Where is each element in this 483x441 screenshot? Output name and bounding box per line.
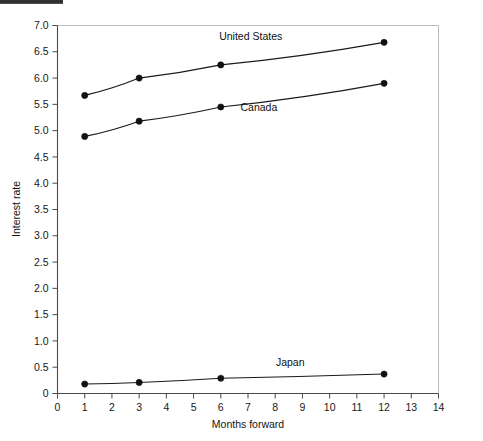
y-tick-label: 1.0	[34, 335, 49, 347]
y-tick-label: 4.0	[34, 177, 49, 189]
y-tick-label: 7.0	[34, 19, 49, 31]
x-tick-label: 3	[136, 401, 142, 413]
chart-canvas: 00.51.01.52.02.53.03.54.04.55.05.56.06.5…	[0, 0, 483, 441]
x-tick-label: 9	[300, 401, 306, 413]
x-tick-label: 13	[405, 401, 417, 413]
data-point-marker	[82, 133, 88, 139]
y-tick-label: 0	[43, 387, 49, 399]
data-point-marker	[82, 92, 88, 98]
x-tick-label: 4	[163, 401, 169, 413]
x-tick-label: 1	[82, 401, 88, 413]
x-tick-label: 10	[324, 401, 336, 413]
y-axis-tick-labels: 00.51.01.52.02.53.03.54.04.55.05.56.06.5…	[34, 19, 49, 399]
y-tick-label: 1.5	[34, 308, 49, 320]
data-point-marker	[136, 379, 142, 385]
x-tick-label: 0	[55, 401, 61, 413]
y-tick-label: 3.0	[34, 229, 49, 241]
data-point-marker	[136, 118, 142, 124]
x-tick-label: 12	[378, 401, 390, 413]
x-tick-label: 6	[218, 401, 224, 413]
y-tick-label: 5.0	[34, 124, 49, 136]
x-tick-label: 14	[433, 401, 445, 413]
axis-lines	[58, 26, 439, 394]
plot-frame	[58, 26, 439, 394]
series-line-japan	[85, 374, 384, 384]
interest-rate-line-chart: 00.51.01.52.02.53.03.54.04.55.05.56.06.5…	[0, 0, 483, 441]
data-point-marker	[136, 75, 142, 81]
data-point-marker	[381, 39, 387, 45]
y-tick-label: 5.5	[34, 98, 49, 110]
series-labels: United StatesCanadaJapan	[219, 30, 304, 368]
x-tick-label: 8	[272, 401, 278, 413]
x-tick-label: 7	[245, 401, 251, 413]
x-tick-label: 5	[191, 401, 197, 413]
data-point-marker	[82, 381, 88, 387]
data-point-marker	[381, 371, 387, 377]
series-line-united-states	[85, 42, 384, 95]
series-markers	[82, 39, 388, 387]
data-point-marker	[218, 104, 224, 110]
y-tick-label: 6.5	[34, 45, 49, 57]
x-axis-tick-labels: 01234567891011121314	[55, 401, 445, 413]
series-label-canada: Canada	[240, 101, 277, 113]
x-tick-label: 2	[109, 401, 115, 413]
x-tick-label: 11	[351, 401, 362, 413]
series-lines	[85, 42, 384, 384]
series-line-canada	[85, 83, 384, 136]
series-label-united-states: United States	[219, 30, 282, 42]
y-tick-label: 2.0	[34, 282, 49, 294]
series-label-japan: Japan	[276, 356, 305, 368]
y-tick-label: 0.5	[34, 361, 49, 373]
data-point-marker	[218, 62, 224, 68]
y-axis-title: Interest rate	[10, 181, 22, 237]
data-point-marker	[381, 80, 387, 86]
y-axis-ticks	[53, 26, 58, 394]
y-tick-label: 2.5	[34, 256, 49, 268]
data-point-marker	[218, 375, 224, 381]
y-tick-label: 3.5	[34, 203, 49, 215]
x-axis-title: Months forward	[212, 418, 285, 430]
y-tick-label: 4.5	[34, 151, 49, 163]
x-axis-ticks	[58, 394, 439, 399]
y-tick-label: 6.0	[34, 72, 49, 84]
